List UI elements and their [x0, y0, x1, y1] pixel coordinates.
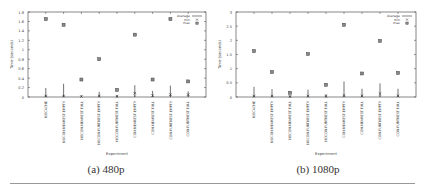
y-tick-label: 0.8	[18, 58, 24, 62]
x-tick-label: NOCON-FURTHEST-EMPTY	[306, 100, 310, 145]
x-tick-label: CON-FURTHEST-EMPTY	[169, 100, 173, 139]
y-tick-label: 1.6	[18, 20, 24, 24]
y-tick-label: 1.5	[226, 53, 232, 57]
max-marker	[80, 78, 83, 81]
y-tick-label: 1.8	[18, 11, 24, 15]
y-tick-label: 1.4	[18, 29, 24, 33]
y-tick-label: 3	[230, 11, 232, 15]
x-tick-label: CON-FURTHEST-FULL	[186, 101, 190, 137]
max-marker	[289, 91, 292, 94]
max-marker	[271, 71, 274, 74]
x-tick-label: NOCACHE	[44, 101, 48, 118]
y-tick-label: 0.5	[226, 81, 232, 85]
x-tick-label: NOCON-NEAREST-EMPTY	[62, 100, 66, 143]
max-marker	[361, 72, 364, 75]
y-tick-label: 0	[22, 96, 25, 100]
y-tick-label: 1	[22, 48, 24, 52]
max-marker	[151, 78, 154, 81]
caption-480p: (a) 480p	[0, 163, 212, 175]
max-marker	[44, 18, 47, 21]
chart-1080p: 00.511.522.53Time (seconds)NOCACHENOCON-…	[212, 0, 424, 170]
x-tick-label: NOCON-NEAREST-EMPTY	[270, 100, 274, 143]
y-tick-label: 1	[230, 67, 232, 71]
x-tick-label: CON-NEAREST-FULL	[360, 101, 364, 135]
max-marker	[253, 50, 256, 53]
legend-label: max	[183, 21, 190, 25]
x-tick-label: NOCON-FURTHEST-EMPTY	[97, 100, 101, 145]
x-tick-label: CON-FURTHEST-EMPTY	[378, 100, 382, 139]
max-marker	[307, 52, 310, 55]
max-marker	[325, 83, 328, 86]
y-axis-label: Time (seconds)	[217, 39, 222, 69]
y-tick-label: 0.2	[18, 86, 24, 90]
y-tick-label: 2	[230, 39, 232, 43]
x-tick-label: NOCON-NEAREST-FULL	[80, 101, 84, 140]
max-marker	[343, 23, 346, 26]
x-tick-label: CON-FURTHEST-FULL	[396, 101, 400, 137]
legend: Averageminmax	[387, 14, 412, 25]
plot-frame	[28, 12, 206, 97]
x-tick-label: NOCACHE	[252, 101, 256, 118]
y-tick-label: 2.5	[226, 25, 232, 29]
divider-line	[10, 183, 415, 184]
legend: Averageminmax	[177, 14, 202, 25]
max-marker	[169, 18, 172, 21]
plot-480p: 00.20.40.60.811.21.41.61.8Time (seconds)…	[0, 0, 212, 165]
max-marker	[379, 39, 382, 42]
max-marker	[62, 23, 65, 26]
y-tick-label: 0	[230, 96, 233, 100]
chart-480p: 00.20.40.60.811.21.41.61.8Time (seconds)…	[0, 0, 212, 170]
plot-1080p: 00.511.522.53Time (seconds)NOCACHENOCON-…	[212, 0, 425, 165]
y-tick-label: 1.2	[18, 39, 24, 43]
x-axis-label: Experiment	[315, 151, 337, 156]
x-tick-label: NOCON-NEAREST-FULL	[288, 101, 292, 140]
max-marker	[98, 58, 101, 61]
y-tick-label: 0.6	[18, 67, 24, 71]
max-marker	[116, 88, 119, 91]
caption-1080p: (b) 1080p	[212, 163, 424, 175]
x-tick-label: NOCON-FURTHEST-FULL	[115, 101, 119, 142]
y-tick-label: 0.4	[18, 77, 24, 81]
x-tick-label: CON-NEAREST-EMPTY	[342, 100, 346, 138]
x-tick-label: NOCON-FURTHEST-FULL	[324, 101, 328, 142]
max-marker	[133, 33, 136, 36]
max-marker	[397, 71, 400, 74]
x-tick-label: CON-NEAREST-EMPTY	[133, 100, 137, 138]
y-axis-label: Time (seconds)	[9, 39, 14, 69]
x-axis-label: Experiment	[106, 151, 128, 156]
legend-label: max	[393, 21, 400, 25]
x-tick-label: CON-NEAREST-FULL	[151, 101, 155, 135]
max-marker	[187, 80, 190, 83]
